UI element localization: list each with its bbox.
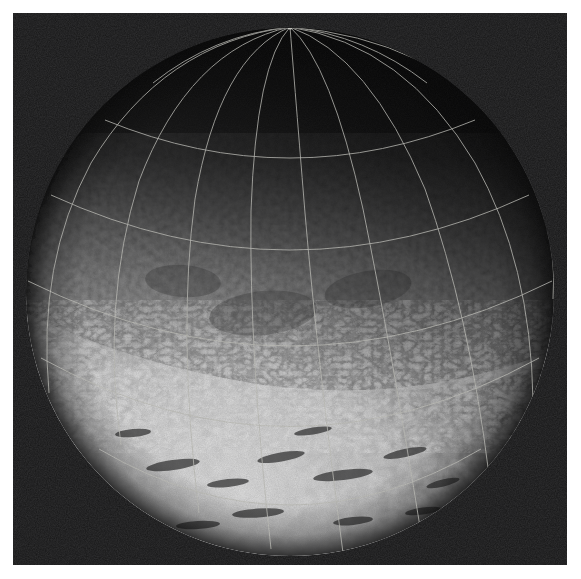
image-page: Triton globe with latitude-longitude gra… — [0, 0, 581, 579]
triton-globe-svg — [13, 13, 567, 565]
triton-photograph — [13, 13, 567, 565]
